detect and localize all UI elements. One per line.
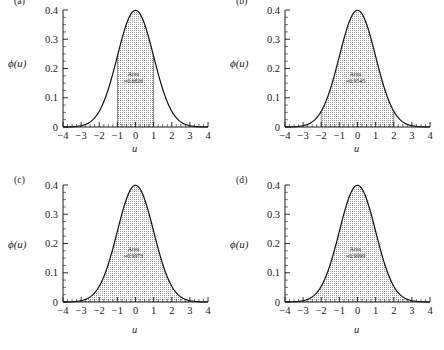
svg-text:0: 0 bbox=[133, 305, 138, 316]
svg-text:0.2: 0.2 bbox=[267, 63, 280, 74]
svg-text:Area: Area bbox=[128, 71, 140, 77]
svg-text:=0.9973: =0.9973 bbox=[124, 253, 143, 259]
svg-text:0.4: 0.4 bbox=[45, 180, 59, 191]
svg-text:3: 3 bbox=[187, 305, 192, 316]
svg-text:−3: −3 bbox=[298, 130, 309, 141]
svg-text:0.4: 0.4 bbox=[267, 5, 281, 16]
svg-text:0.2: 0.2 bbox=[45, 63, 58, 74]
panel-a: (a) ϕ(u) u −4−3−2−10123400.10.20.30.4Are… bbox=[0, 0, 222, 175]
svg-text:1: 1 bbox=[373, 130, 378, 141]
svg-text:Area: Area bbox=[128, 246, 140, 252]
svg-text:3: 3 bbox=[409, 305, 414, 316]
svg-text:3: 3 bbox=[187, 130, 192, 141]
svg-text:0.1: 0.1 bbox=[45, 267, 58, 278]
svg-text:−4: −4 bbox=[57, 130, 69, 141]
svg-text:−3: −3 bbox=[76, 305, 87, 316]
svg-text:−4: −4 bbox=[279, 305, 291, 316]
panel-c: (c) ϕ(u) u −4−3−2−10123400.10.20.30.4Are… bbox=[0, 175, 222, 350]
svg-text:0: 0 bbox=[53, 122, 58, 133]
plot-a: −4−3−2−10123400.10.20.30.4Area=0.6826 bbox=[0, 0, 222, 175]
svg-text:0: 0 bbox=[133, 130, 138, 141]
svg-text:0.3: 0.3 bbox=[45, 209, 58, 220]
svg-text:=0.9999: =0.9999 bbox=[346, 253, 365, 259]
svg-text:1: 1 bbox=[151, 305, 156, 316]
svg-text:−2: −2 bbox=[94, 130, 105, 141]
svg-text:0: 0 bbox=[275, 297, 280, 308]
svg-text:−4: −4 bbox=[57, 305, 69, 316]
svg-text:−1: −1 bbox=[112, 130, 123, 141]
svg-text:0.1: 0.1 bbox=[267, 267, 280, 278]
svg-text:4: 4 bbox=[427, 130, 433, 141]
panel-b: (b) ϕ(u) u −4−3−2−10123400.10.20.30.4Are… bbox=[222, 0, 444, 175]
plot-d: −4−3−2−10123400.10.20.30.4Area=0.9999 bbox=[222, 175, 444, 350]
svg-text:1: 1 bbox=[373, 305, 378, 316]
svg-text:Area: Area bbox=[350, 71, 362, 77]
normal-distribution-figure: (a) ϕ(u) u −4−3−2−10123400.10.20.30.4Are… bbox=[0, 0, 444, 350]
svg-text:4: 4 bbox=[427, 305, 433, 316]
svg-text:0.1: 0.1 bbox=[267, 92, 280, 103]
svg-text:=0.6826: =0.6826 bbox=[124, 78, 143, 84]
svg-text:0: 0 bbox=[355, 305, 360, 316]
svg-text:2: 2 bbox=[391, 130, 396, 141]
svg-text:0.2: 0.2 bbox=[267, 238, 280, 249]
svg-text:4: 4 bbox=[205, 130, 211, 141]
panel-d: (d) ϕ(u) u −4−3−2−10123400.10.20.30.4Are… bbox=[222, 175, 444, 350]
svg-text:0.4: 0.4 bbox=[267, 180, 281, 191]
svg-text:0: 0 bbox=[355, 130, 360, 141]
svg-text:−4: −4 bbox=[279, 130, 291, 141]
svg-text:3: 3 bbox=[409, 130, 414, 141]
svg-text:−1: −1 bbox=[112, 305, 123, 316]
svg-text:−3: −3 bbox=[298, 305, 309, 316]
svg-text:2: 2 bbox=[169, 130, 174, 141]
svg-text:Area: Area bbox=[350, 246, 362, 252]
svg-text:2: 2 bbox=[391, 305, 396, 316]
svg-text:0.2: 0.2 bbox=[45, 238, 58, 249]
svg-text:−3: −3 bbox=[76, 130, 87, 141]
svg-text:0.3: 0.3 bbox=[45, 34, 58, 45]
svg-text:0.3: 0.3 bbox=[267, 209, 280, 220]
svg-text:0.4: 0.4 bbox=[45, 5, 59, 16]
svg-text:4: 4 bbox=[205, 305, 211, 316]
svg-text:−2: −2 bbox=[316, 305, 327, 316]
svg-text:−1: −1 bbox=[334, 130, 345, 141]
svg-text:=0.9545: =0.9545 bbox=[346, 78, 365, 84]
svg-text:1: 1 bbox=[151, 130, 156, 141]
svg-text:0: 0 bbox=[275, 122, 280, 133]
svg-text:0: 0 bbox=[53, 297, 58, 308]
svg-text:2: 2 bbox=[169, 305, 174, 316]
svg-text:−1: −1 bbox=[334, 305, 345, 316]
svg-text:0.3: 0.3 bbox=[267, 34, 280, 45]
svg-text:−2: −2 bbox=[316, 130, 327, 141]
svg-text:−2: −2 bbox=[94, 305, 105, 316]
svg-text:0.1: 0.1 bbox=[45, 92, 58, 103]
plot-c: −4−3−2−10123400.10.20.30.4Area=0.9973 bbox=[0, 175, 222, 350]
plot-b: −4−3−2−10123400.10.20.30.4Area=0.9545 bbox=[222, 0, 444, 175]
